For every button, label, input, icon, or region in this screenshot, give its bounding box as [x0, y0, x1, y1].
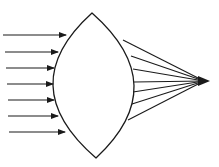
converging-ray: [123, 40, 204, 81]
converging-rays: [123, 40, 204, 120]
incoming-parallel-rays: [3, 35, 66, 132]
lens-diagram: [0, 0, 219, 167]
converging-ray: [132, 81, 204, 104]
converging-ray: [131, 56, 204, 81]
converging-ray: [134, 81, 204, 82]
focal-point-arrow-icon: [198, 76, 210, 86]
focal-arrowhead: [198, 76, 210, 86]
